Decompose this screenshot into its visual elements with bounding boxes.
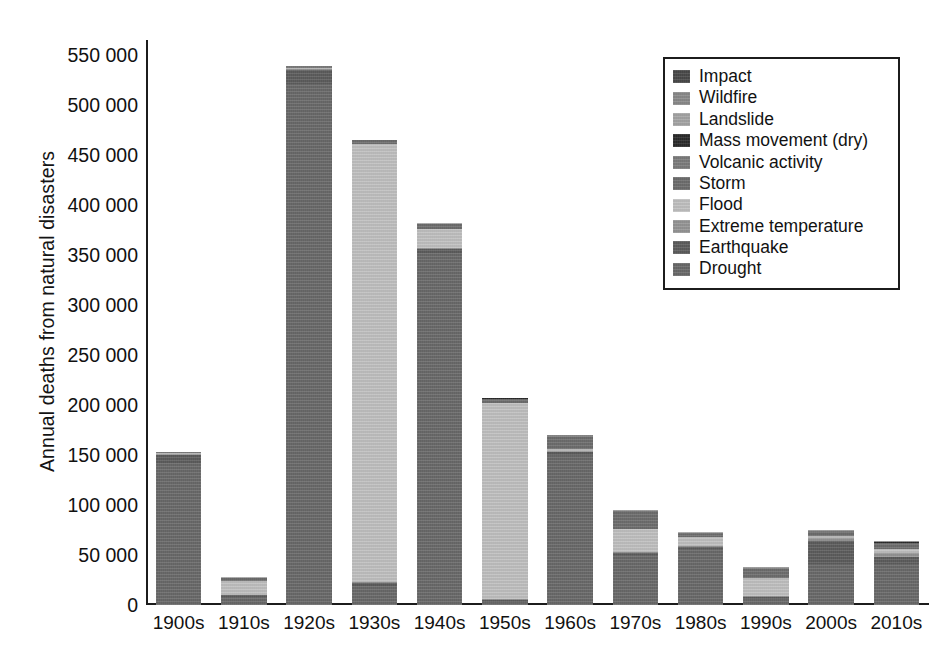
chart-figure: Annual deaths from natural disasters 050… <box>0 0 939 661</box>
legend-color-swatch <box>673 220 690 233</box>
y-axis-title: Annual deaths from natural disasters <box>36 77 59 547</box>
x-tick-label: 1990s <box>740 612 792 634</box>
swatch-texture <box>673 156 690 169</box>
stacked-bar[interactable] <box>221 577 267 605</box>
swatch-texture <box>673 220 690 233</box>
x-tick-label: 1920s <box>283 612 335 634</box>
bar-segment <box>613 555 659 605</box>
swatch-texture <box>673 199 690 212</box>
bar-segment <box>417 253 463 605</box>
bar-segment <box>221 581 267 595</box>
legend-item-label: Landslide <box>699 111 774 129</box>
y-tick-label: 150 000 <box>68 444 139 467</box>
legend-item-label: Volcanic activity <box>699 154 823 172</box>
legend-item[interactable]: Flood <box>673 194 890 215</box>
x-tick-label: 1910s <box>218 612 270 634</box>
bar-segment <box>743 569 789 578</box>
bar-segment <box>678 537 724 546</box>
legend-item[interactable]: Landslide <box>673 109 890 130</box>
legend-item-label: Drought <box>699 260 761 278</box>
y-tick-label: 550 000 <box>68 44 139 67</box>
y-tick-label: 200 000 <box>68 394 139 417</box>
legend-item-label: Wildfire <box>699 89 757 107</box>
bar-segment <box>482 602 528 605</box>
swatch-texture <box>673 177 690 190</box>
legend-item[interactable]: Wildfire <box>673 87 890 108</box>
bar-segment <box>352 144 398 582</box>
bar-segment <box>417 229 463 248</box>
bar-segment <box>352 586 398 605</box>
bar-segment <box>221 597 267 605</box>
legend-item[interactable]: Impact <box>673 66 890 87</box>
stacked-bar[interactable] <box>482 398 528 605</box>
x-tick-label: 2010s <box>870 612 922 634</box>
stacked-bar[interactable] <box>156 452 202 605</box>
legend-color-swatch <box>673 70 690 83</box>
x-tick-label: 1930s <box>348 612 400 634</box>
bar-segment <box>286 84 332 605</box>
swatch-texture <box>673 263 690 276</box>
bar-slot <box>277 40 342 605</box>
x-axis-tick-labels: 1900s1910s1920s1930s1940s1950s1960s1970s… <box>146 612 929 642</box>
stacked-bar[interactable] <box>678 532 724 605</box>
legend-color-swatch <box>673 134 690 147</box>
y-tick-label: 50 000 <box>78 544 138 567</box>
bar-slot <box>538 40 603 605</box>
bar-segment <box>286 70 332 84</box>
stacked-bar[interactable] <box>286 66 332 605</box>
x-tick-label: 1970s <box>609 612 661 634</box>
bar-segment <box>156 463 202 605</box>
stacked-bar[interactable] <box>808 530 854 605</box>
bar-segment <box>678 549 724 605</box>
bar-segment <box>547 437 593 449</box>
x-tick-label: 1960s <box>544 612 596 634</box>
legend-item[interactable]: Drought <box>673 259 890 280</box>
legend: ImpactWildfireLandslideMass movement (dr… <box>663 57 900 290</box>
swatch-texture <box>673 113 690 126</box>
bar-slot <box>472 40 537 605</box>
bar-segment <box>808 541 854 564</box>
legend-color-swatch <box>673 113 690 126</box>
legend-item-label: Storm <box>699 175 746 193</box>
y-tick-label: 500 000 <box>68 94 139 117</box>
legend-item[interactable]: Storm <box>673 173 890 194</box>
y-tick-label: 300 000 <box>68 294 139 317</box>
legend-item-label: Impact <box>699 68 752 86</box>
legend-item-label: Extreme temperature <box>699 218 863 236</box>
swatch-texture <box>673 92 690 105</box>
legend-item[interactable]: Extreme temperature <box>673 216 890 237</box>
y-tick-label: 400 000 <box>68 194 139 217</box>
bar-slot <box>211 40 276 605</box>
legend-color-swatch <box>673 263 690 276</box>
legend-item[interactable]: Earthquake <box>673 237 890 258</box>
legend-color-swatch <box>673 92 690 105</box>
y-tick-label: 0 <box>127 594 138 617</box>
bar-segment <box>874 564 920 605</box>
swatch-texture <box>673 241 690 254</box>
legend-item-label: Mass movement (dry) <box>699 132 868 150</box>
legend-item[interactable]: Volcanic activity <box>673 152 890 173</box>
legend-item[interactable]: Mass movement (dry) <box>673 130 890 151</box>
stacked-bar[interactable] <box>613 510 659 605</box>
stacked-bar[interactable] <box>743 567 789 605</box>
stacked-bar[interactable] <box>874 541 920 605</box>
bar-segment <box>874 557 920 564</box>
x-tick-label: 1980s <box>675 612 727 634</box>
bar-segment <box>482 403 528 599</box>
bar-segment <box>808 564 854 605</box>
bar-slot <box>603 40 668 605</box>
bar-slot <box>407 40 472 605</box>
legend-color-swatch <box>673 156 690 169</box>
stacked-bar[interactable] <box>547 435 593 605</box>
stacked-bar[interactable] <box>417 223 463 605</box>
x-tick-label: 1950s <box>479 612 531 634</box>
bar-segment <box>547 455 593 605</box>
y-tick-label: 250 000 <box>68 344 139 367</box>
bar-segment <box>743 578 789 596</box>
swatch-texture <box>673 134 690 147</box>
stacked-bar[interactable] <box>352 140 398 606</box>
x-tick-label: 1900s <box>153 612 205 634</box>
bar-segment <box>613 511 659 529</box>
legend-color-swatch <box>673 241 690 254</box>
legend-item-label: Earthquake <box>699 239 789 257</box>
